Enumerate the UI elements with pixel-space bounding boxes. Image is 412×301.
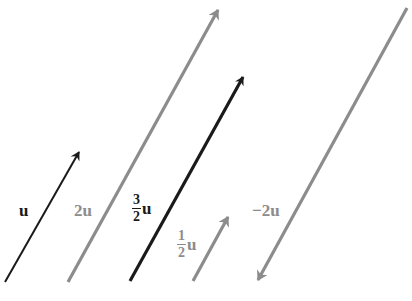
fraction-one-half: 1 2 <box>177 229 186 260</box>
label-var: u <box>142 199 151 218</box>
label-2u: 2u <box>74 202 92 219</box>
vector-arrows <box>0 0 412 301</box>
label-neg-2u-text: −2u <box>252 201 280 220</box>
label-u: u <box>19 202 28 219</box>
vector-half-u-arrow <box>193 217 228 281</box>
vector-u-arrow <box>5 152 79 282</box>
vector-scaling-diagram: u 2u 3 2 u 1 2 u −2u <box>0 0 412 301</box>
fraction-numerator: 3 <box>132 193 141 209</box>
fraction-denominator: 2 <box>178 245 185 260</box>
label-u-text: u <box>19 201 28 220</box>
label-var: u <box>187 235 196 254</box>
fraction-numerator: 1 <box>177 229 186 245</box>
label-neg-2u: −2u <box>252 202 280 219</box>
fraction-denominator: 2 <box>133 209 140 224</box>
vector-neg-2u-arrow <box>258 8 407 280</box>
label-2u-text: 2u <box>74 201 92 220</box>
fraction-three-halves: 3 2 <box>132 193 141 224</box>
label-three-halves-u: 3 2 u <box>132 193 151 224</box>
label-half-u: 1 2 u <box>177 229 196 260</box>
